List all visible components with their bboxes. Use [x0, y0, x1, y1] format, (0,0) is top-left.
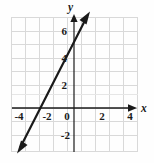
- x-tick-label-2: 2: [99, 110, 105, 122]
- y-tick-label-neg2: -2: [61, 129, 71, 141]
- x-tick-label-neg2: -2: [42, 110, 52, 122]
- origin-label: 0: [64, 110, 70, 122]
- graph-canvas: x y -4 -2 2 4 0 6 4 2 -2: [0, 0, 154, 163]
- x-tick-label-neg4: -4: [14, 110, 24, 122]
- y-tick-label-2: 2: [62, 79, 68, 91]
- x-axis-label: x: [140, 102, 147, 114]
- y-tick-label-4: 4: [62, 52, 68, 64]
- coordinate-plane-figure: x y -4 -2 2 4 0 6 4 2 -2: [0, 0, 154, 163]
- y-axis-label: y: [66, 1, 74, 14]
- y-tick-label-6: 6: [62, 25, 68, 37]
- x-tick-label-4: 4: [127, 110, 133, 122]
